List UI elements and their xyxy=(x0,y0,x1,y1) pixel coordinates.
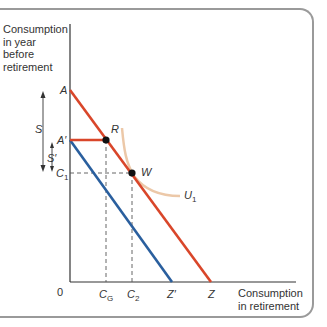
label-origin: 0 xyxy=(57,286,63,298)
point-r xyxy=(102,136,109,143)
s-arrow-down-head xyxy=(41,165,46,172)
point-w xyxy=(128,169,135,176)
label-r: R xyxy=(111,123,119,135)
indifference-curve-u1 xyxy=(122,128,180,196)
budget-line-original xyxy=(70,90,211,282)
s-prime-arrow-up-head xyxy=(50,142,54,148)
label-s-prime: S′ xyxy=(47,152,57,164)
diagram-canvas: A A′ C1 S S′ R W U1 0 CG C2 Z′ Z xyxy=(0,0,327,327)
label-c1: C1 xyxy=(56,167,69,182)
label-z-prime: Z′ xyxy=(166,288,177,300)
label-z: Z xyxy=(207,288,216,300)
label-cg: CG xyxy=(99,288,113,303)
label-a: A xyxy=(59,84,67,96)
s-prime-arrow-down-head xyxy=(50,166,54,172)
label-u1: U1 xyxy=(184,189,197,204)
label-w: W xyxy=(141,166,153,178)
s-arrow-up-head xyxy=(41,91,46,98)
label-a-prime: A′ xyxy=(56,134,67,146)
label-s: S xyxy=(35,123,43,135)
label-c2: C2 xyxy=(127,288,140,303)
